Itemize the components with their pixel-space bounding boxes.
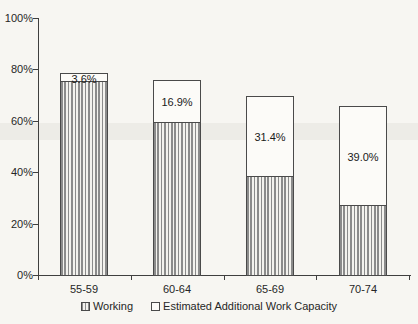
- y-axis-tick: [33, 18, 38, 19]
- y-axis-tick-label: 100%: [1, 12, 33, 24]
- legend-item-working: Working: [81, 300, 133, 312]
- x-axis-tick: [316, 276, 317, 280]
- x-axis-tick: [38, 276, 39, 280]
- capacity-data-label-60-64: 16.9%: [154, 81, 200, 124]
- x-axis-category-label: 60-64: [145, 283, 209, 295]
- y-axis-tick-label: 0%: [1, 269, 33, 281]
- capacity-data-label-70-74: 39.0%: [340, 107, 386, 207]
- capacity-data-label-65-69: 31.4%: [247, 97, 293, 178]
- legend-item-capacity: Estimated Additional Work Capacity: [151, 300, 337, 312]
- x-axis-category-label: 55-59: [52, 283, 116, 295]
- working-segment-65-69: [247, 176, 293, 275]
- striped-square-icon: [81, 302, 90, 311]
- chart-legend: WorkingEstimated Additional Work Capacit…: [0, 299, 418, 313]
- working-segment-55-59: [61, 81, 107, 275]
- x-axis-tick: [224, 276, 225, 280]
- working-segment-70-74: [340, 205, 386, 275]
- bar-group-55-59: 3.6%: [60, 73, 108, 276]
- y-axis: [38, 18, 39, 275]
- x-axis-tick: [409, 276, 410, 280]
- y-axis-tick: [33, 172, 38, 173]
- y-axis-tick-label: 40%: [1, 166, 33, 178]
- y-axis-tick: [33, 224, 38, 225]
- bar-group-65-69: 31.4%: [246, 96, 294, 276]
- legend-label: Estimated Additional Work Capacity: [163, 300, 337, 312]
- x-axis-category-label: 70-74: [331, 283, 395, 295]
- stacked-bar-chart: 0%20%40%60%80%100%3.6%55-5916.9%60-6431.…: [0, 0, 418, 324]
- capacity-data-label-55-59: 3.6%: [61, 74, 107, 85]
- legend-label: Working: [93, 300, 133, 312]
- white-square-icon: [151, 302, 160, 311]
- y-axis-tick-label: 60%: [1, 115, 33, 127]
- bar-group-70-74: 39.0%: [339, 106, 387, 276]
- x-axis-tick: [131, 276, 132, 280]
- working-segment-60-64: [154, 122, 200, 275]
- y-axis-tick-label: 20%: [1, 218, 33, 230]
- y-axis-tick: [33, 121, 38, 122]
- y-axis-tick-label: 80%: [1, 63, 33, 75]
- y-axis-tick: [33, 69, 38, 70]
- x-axis-category-label: 65-69: [238, 283, 302, 295]
- bar-group-60-64: 16.9%: [153, 80, 201, 276]
